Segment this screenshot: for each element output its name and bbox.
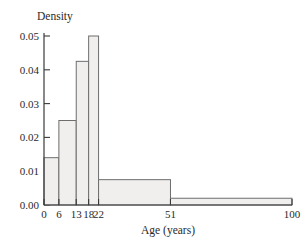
x-tick-label: 100 <box>284 208 301 220</box>
x-tick-label: 0 <box>41 208 47 220</box>
y-tick-label: 0.04 <box>20 64 40 76</box>
y-tick-label: 0.03 <box>20 98 40 110</box>
y-axis-title: Density <box>37 10 73 23</box>
y-tick-label: 0.02 <box>20 131 39 143</box>
y-tick-label: 0.05 <box>20 30 40 42</box>
x-tick-label: 6 <box>56 208 62 220</box>
histogram-chart: Density 0.000.010.020.030.040.05 0613182… <box>0 0 306 248</box>
x-tick-label: 51 <box>165 208 176 220</box>
histogram-bar <box>44 158 59 205</box>
x-tick-label: 13 <box>71 208 83 220</box>
histogram-bar <box>170 198 292 205</box>
histogram-bar <box>76 61 88 205</box>
y-axis-tick-labels: 0.000.010.020.030.040.05 <box>20 30 40 211</box>
histogram-bar <box>59 121 76 206</box>
y-tick-label: 0.01 <box>20 165 39 177</box>
x-tick-label: 22 <box>93 208 104 220</box>
histogram-bar <box>99 180 171 205</box>
x-axis-tick-labels: 0613182251100 <box>41 208 301 220</box>
histogram-bar <box>89 36 99 205</box>
y-tick-label: 0.00 <box>20 199 40 211</box>
histogram-bars <box>44 36 292 205</box>
chart-canvas: Density 0.000.010.020.030.040.05 0613182… <box>0 0 306 248</box>
x-axis-title: Age (years) <box>141 224 195 237</box>
